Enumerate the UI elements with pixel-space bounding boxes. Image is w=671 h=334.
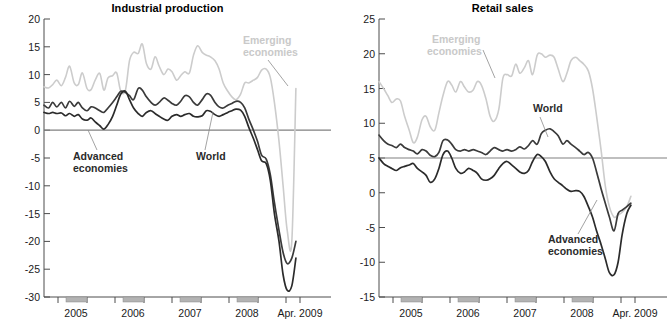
series-line-world [379, 129, 631, 231]
chart-industrial-production: 20 15 10 5 0 -5 -10 -15 -20 -25 -30 [0, 0, 335, 334]
leader-line-advanced [88, 130, 97, 150]
y-tick-label: 15 [363, 83, 375, 95]
y-tick-label: 0 [34, 124, 40, 136]
annotation-advanced-line2: economies [548, 245, 603, 257]
x-tick-label-2007: 2007 [513, 307, 537, 319]
annotation-emerging-line1: Emerging [243, 34, 291, 46]
y-tick-label: 10 [28, 69, 40, 81]
annotation-advanced-economies: Advanced economies [548, 200, 603, 257]
leader-line-world [205, 112, 213, 150]
y-tick-label: -25 [25, 263, 40, 275]
x-tick-label-2005: 2005 [64, 307, 88, 319]
chart-retail-sales: 25 20 15 10 5 0 -5 -10 -15 [335, 0, 671, 334]
x-tick-label-2008: 2008 [235, 307, 259, 319]
annotation-advanced-line1: Advanced [73, 150, 123, 162]
series-line-advanced-economies [44, 91, 296, 291]
x-tick-label-apr-2009: Apr. 2009 [278, 307, 323, 319]
y-tick-label: -20 [25, 235, 40, 247]
x-axis-group: 2005 2006 2007 2008 Apr. 2009 [379, 297, 667, 319]
y-tick-label: -10 [25, 180, 40, 192]
x-axis-group: 2005 2006 2007 2008 Apr. 2009 [44, 297, 331, 319]
annotation-advanced-line2: economies [73, 162, 128, 174]
annotation-world-label: World [533, 102, 563, 114]
y-tick-label: 5 [369, 152, 375, 164]
year-bar-2007 [515, 297, 536, 302]
year-bar-2007 [180, 297, 201, 302]
y-tick-label: 0 [369, 187, 375, 199]
y-axis-group: 20 15 10 5 0 -5 -10 -15 -20 -25 -30 [25, 13, 50, 303]
x-tick-label-2005: 2005 [399, 307, 423, 319]
year-bar-2005 [401, 297, 422, 302]
y-tick-marks [44, 19, 50, 297]
y-tick-label: -30 [25, 291, 40, 303]
leader-line-emerging [483, 50, 495, 78]
annotation-world-label: World [196, 150, 226, 162]
year-bar-2006 [458, 297, 479, 302]
y-tick-label: 20 [28, 13, 40, 25]
annotation-emerging-line2: economies [243, 46, 298, 58]
y-tick-label: 25 [363, 13, 375, 25]
x-tick-label-2006: 2006 [456, 307, 480, 319]
y-tick-label: 5 [34, 96, 40, 108]
y-tick-label: -5 [366, 222, 375, 234]
y-tick-label: -15 [360, 291, 375, 303]
series-line-emerging-economies [379, 53, 631, 217]
year-bar-2006 [123, 297, 144, 302]
x-tick-label-2008: 2008 [570, 307, 594, 319]
y-tick-label: -5 [31, 152, 40, 164]
annotation-advanced-economies: Advanced economies [73, 130, 128, 174]
y-tick-label: 20 [363, 48, 375, 60]
annotation-advanced-line1: Advanced [548, 233, 598, 245]
annotation-emerging-line2: economies [427, 45, 482, 57]
annotation-emerging-economies: Emerging economies [427, 33, 495, 78]
annotation-world: World [196, 112, 226, 162]
panel-retail-sales: Retail sales 25 20 15 10 [335, 0, 670, 334]
year-bar-2008 [237, 297, 258, 302]
series-line-world [44, 88, 296, 264]
annotation-emerging-line1: Emerging [432, 33, 480, 45]
x-tick-label-2007: 2007 [178, 307, 202, 319]
panel-industrial-production: Industrial production 20 [0, 0, 335, 334]
x-tick-label-apr-2009: Apr. 2009 [613, 307, 658, 319]
figure-container: Industrial production 20 [0, 0, 671, 334]
year-bar-2008 [572, 297, 593, 302]
y-tick-label: 15 [28, 41, 40, 53]
y-tick-label: 10 [363, 117, 375, 129]
x-tick-marks [58, 297, 300, 303]
y-tick-label: -15 [25, 208, 40, 220]
y-tick-label: -10 [360, 256, 375, 268]
x-tick-marks [393, 297, 635, 303]
series-line-emerging-economies [44, 44, 296, 251]
year-bar-2005 [66, 297, 87, 302]
annotation-world: World [533, 102, 563, 137]
x-tick-label-2006: 2006 [121, 307, 145, 319]
